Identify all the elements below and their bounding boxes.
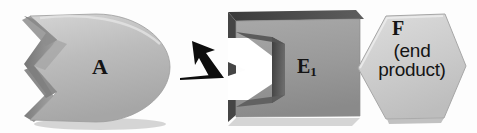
diagram-canvas: A E1 F (end product) — [0, 0, 477, 133]
release-arrow[interactable] — [180, 41, 224, 80]
substrate-a-body — [30, 14, 170, 122]
release-arrow-head — [192, 41, 224, 78]
enzyme-e1-left-face — [228, 12, 236, 122]
enzyme-e1-notch-wall — [272, 37, 285, 103]
enzyme-e1-shadow — [228, 118, 360, 126]
diagram-svg — [0, 0, 477, 133]
product-f-underside — [387, 118, 444, 124]
shape-substrate-a[interactable] — [22, 14, 170, 130]
